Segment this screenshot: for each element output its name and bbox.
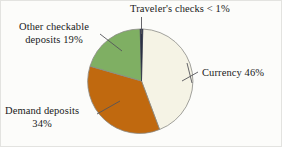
pie-label-demand-deposits-line1: Demand deposits [5, 105, 79, 118]
pie-label-other-checkable-deposits-line1: Other checkable [19, 21, 89, 34]
pie-label-travelers-checks: Traveler's checks < 1% [130, 3, 230, 16]
pie-label-currency-text: Currency 46% [202, 67, 264, 80]
pie-label-travelers-checks-text: Traveler's checks < 1% [130, 3, 230, 16]
pie-chart-figure: Traveler's checks < 1% Other checkable d… [0, 0, 282, 147]
pie-label-other-checkable-deposits: Other checkable deposits 19% [19, 21, 89, 46]
pie-label-demand-deposits-line2: 34% [5, 118, 79, 131]
pie-label-demand-deposits: Demand deposits 34% [5, 105, 79, 130]
pie-label-currency: Currency 46% [202, 67, 264, 80]
pie-label-other-checkable-deposits-line2: deposits 19% [19, 34, 89, 47]
